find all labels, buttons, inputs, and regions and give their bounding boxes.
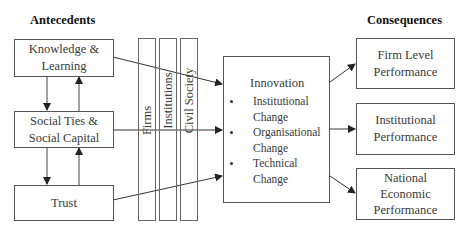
civil-society-label: Civil Society xyxy=(182,61,197,141)
social-ties-capital-box: Social Ties & Social Capital xyxy=(14,111,114,148)
knowledge-line2: Learning xyxy=(29,58,99,75)
item-line2: Change xyxy=(253,110,309,126)
item-line1: Organisational xyxy=(253,125,321,141)
firm-level-performance-box: Firm Level Performance xyxy=(356,38,455,89)
bullet-dot xyxy=(230,100,233,103)
national-line2: Economic xyxy=(374,186,438,202)
institutions-label: Institutions xyxy=(161,61,176,141)
firm-line2: Performance xyxy=(374,64,438,81)
national-line1: National xyxy=(374,170,438,186)
bullet-dot xyxy=(230,131,233,134)
knowledge-line1: Knowledge & xyxy=(29,41,99,58)
firms-label: Firms xyxy=(140,91,155,151)
item-line2: Change xyxy=(253,172,298,188)
social-line2: Social Capital xyxy=(29,130,99,147)
item-line2: Change xyxy=(253,141,321,157)
social-line1: Social Ties & xyxy=(29,113,99,130)
institutional-line1: Institutional xyxy=(374,112,438,129)
bullet-dot xyxy=(230,162,233,165)
item-line1: Technical xyxy=(253,156,298,172)
firm-line1: Firm Level xyxy=(374,47,438,64)
trust-label: Trust xyxy=(51,195,77,212)
institutional-line2: Performance xyxy=(374,129,438,146)
item-line1: Institutional xyxy=(253,94,309,110)
knowledge-learning-box: Knowledge & Learning xyxy=(14,39,114,77)
innovation-item-institutional: Institutional Change xyxy=(253,94,309,125)
innovation-item-technical: Technical Change xyxy=(253,156,298,187)
institutional-performance-box: Institutional Performance xyxy=(356,103,455,155)
innovation-title: Innovation xyxy=(250,76,304,91)
innovation-item-organisational: Organisational Change xyxy=(253,125,321,156)
national-economic-performance-box: National Economic Performance xyxy=(356,168,455,220)
national-line3: Performance xyxy=(374,202,438,218)
trust-box: Trust xyxy=(14,185,114,221)
